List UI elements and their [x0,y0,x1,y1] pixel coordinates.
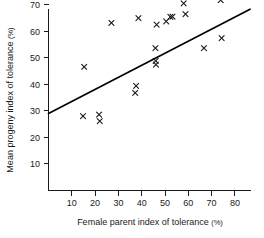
data-point [82,64,87,69]
x-tick-label: 20 [90,198,100,208]
x-tick-label: 10 [67,198,77,208]
y-tick-label: 10 [30,159,40,169]
data-point [97,112,102,117]
data-point [80,114,85,119]
data-point [219,36,224,41]
x-tick-label: 80 [230,198,240,208]
y-axis-title: Mean progeny index of tolerance (%) [5,27,15,173]
regression-line-group [49,9,251,113]
data-point [154,22,159,27]
data-point [136,16,141,21]
data-point [183,12,188,17]
x-tick-group: 1020304050607080 [67,191,240,209]
data-point [153,46,158,51]
data-point [133,90,138,95]
data-points-group [80,0,224,124]
data-point [97,119,102,124]
data-point [109,20,114,25]
data-point [218,0,223,3]
x-tick-label: 40 [137,198,147,208]
regression-line [49,9,251,113]
y-tick-label: 30 [30,106,40,116]
x-tick-label: 30 [113,198,123,208]
data-point [201,46,206,51]
x-tick-label: 50 [160,198,170,208]
data-point [153,62,158,67]
y-tick-label: 20 [30,133,40,143]
y-tick-group: 10203040506070 [30,0,49,169]
y-tick-label: 50 [30,53,40,63]
scatter-chart-figure: 10203040506070 1020304050607080 Female p… [0,0,264,238]
x-tick-label: 70 [207,198,217,208]
x-tick-label: 60 [183,198,193,208]
y-tick-label: 40 [30,80,40,90]
y-tick-label: 70 [30,0,40,10]
axes-group [49,9,251,191]
y-tick-label: 60 [30,27,40,37]
x-axis-title: Female parent index of tolerance (%) [77,217,223,227]
chart-canvas: 10203040506070 1020304050607080 Female p… [0,0,264,238]
data-point [134,83,139,88]
data-point [181,1,186,6]
